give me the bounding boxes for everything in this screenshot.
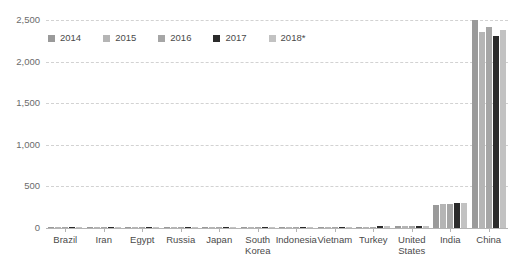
bar bbox=[493, 36, 499, 228]
x-axis-tick bbox=[373, 228, 374, 232]
bar-group bbox=[277, 20, 316, 228]
bar-chart: 05001,0001,5002,0002,500 BrazilIranEgypt… bbox=[0, 0, 515, 268]
legend-item[interactable]: 2016 bbox=[158, 33, 191, 43]
x-axis-tick bbox=[104, 228, 105, 232]
y-axis-tick-label: 500 bbox=[0, 181, 40, 191]
x-axis-tick bbox=[489, 228, 490, 232]
y-axis-tick-label: 0 bbox=[0, 223, 40, 233]
legend-swatch-icon bbox=[213, 35, 220, 42]
legend-swatch-icon bbox=[158, 35, 165, 42]
bar-group bbox=[470, 20, 509, 228]
legend-item[interactable]: 2014 bbox=[48, 33, 81, 43]
bar bbox=[440, 204, 446, 228]
x-axis-tick bbox=[412, 228, 413, 232]
x-axis-tick-label: China bbox=[464, 234, 515, 245]
legend-item[interactable]: 2017 bbox=[213, 33, 246, 43]
bar-group bbox=[239, 20, 278, 228]
bar bbox=[433, 205, 439, 228]
x-axis-category: China bbox=[470, 228, 509, 268]
bar-group bbox=[162, 20, 201, 228]
legend-item[interactable]: 2015 bbox=[103, 33, 136, 43]
x-axis-tick bbox=[450, 228, 451, 232]
bar-group bbox=[123, 20, 162, 228]
legend-label: 2014 bbox=[60, 33, 81, 43]
bar bbox=[500, 30, 506, 228]
legend-item[interactable]: 2018* bbox=[269, 33, 306, 43]
legend-label: 2017 bbox=[225, 33, 246, 43]
bar bbox=[472, 20, 478, 228]
bar-group bbox=[354, 20, 393, 228]
bar bbox=[447, 204, 453, 228]
x-axis-tick bbox=[65, 228, 66, 232]
bar bbox=[486, 27, 492, 228]
x-axis-tick bbox=[335, 228, 336, 232]
legend-swatch-icon bbox=[103, 35, 110, 42]
x-axis-tick bbox=[258, 228, 259, 232]
y-axis-tick-label: 2,000 bbox=[0, 57, 40, 67]
bar-group bbox=[85, 20, 124, 228]
bar-groups bbox=[46, 20, 508, 228]
x-axis-tick bbox=[296, 228, 297, 232]
x-axis-tick bbox=[219, 228, 220, 232]
y-axis-tick-label: 1,000 bbox=[0, 140, 40, 150]
y-axis-tick-label: 2,500 bbox=[0, 15, 40, 25]
x-axis-tick bbox=[181, 228, 182, 232]
bar-group bbox=[316, 20, 355, 228]
x-axis: BrazilIranEgyptRussiaJapanSouth KoreaInd… bbox=[46, 228, 508, 268]
bar-group bbox=[431, 20, 470, 228]
legend-label: 2015 bbox=[115, 33, 136, 43]
y-axis: 05001,0001,5002,0002,500 bbox=[0, 20, 40, 228]
bar-group bbox=[393, 20, 432, 228]
legend: 20142015201620172018* bbox=[48, 33, 327, 43]
legend-label: 2018* bbox=[281, 33, 306, 43]
y-axis-tick-label: 1,500 bbox=[0, 98, 40, 108]
legend-swatch-icon bbox=[269, 35, 276, 42]
bar bbox=[479, 32, 485, 228]
bar bbox=[454, 203, 460, 228]
plot-area bbox=[46, 20, 508, 228]
legend-label: 2016 bbox=[170, 33, 191, 43]
bar-group bbox=[46, 20, 85, 228]
legend-swatch-icon bbox=[48, 35, 55, 42]
bar-group bbox=[200, 20, 239, 228]
x-axis-tick bbox=[142, 228, 143, 232]
bar bbox=[461, 203, 467, 228]
